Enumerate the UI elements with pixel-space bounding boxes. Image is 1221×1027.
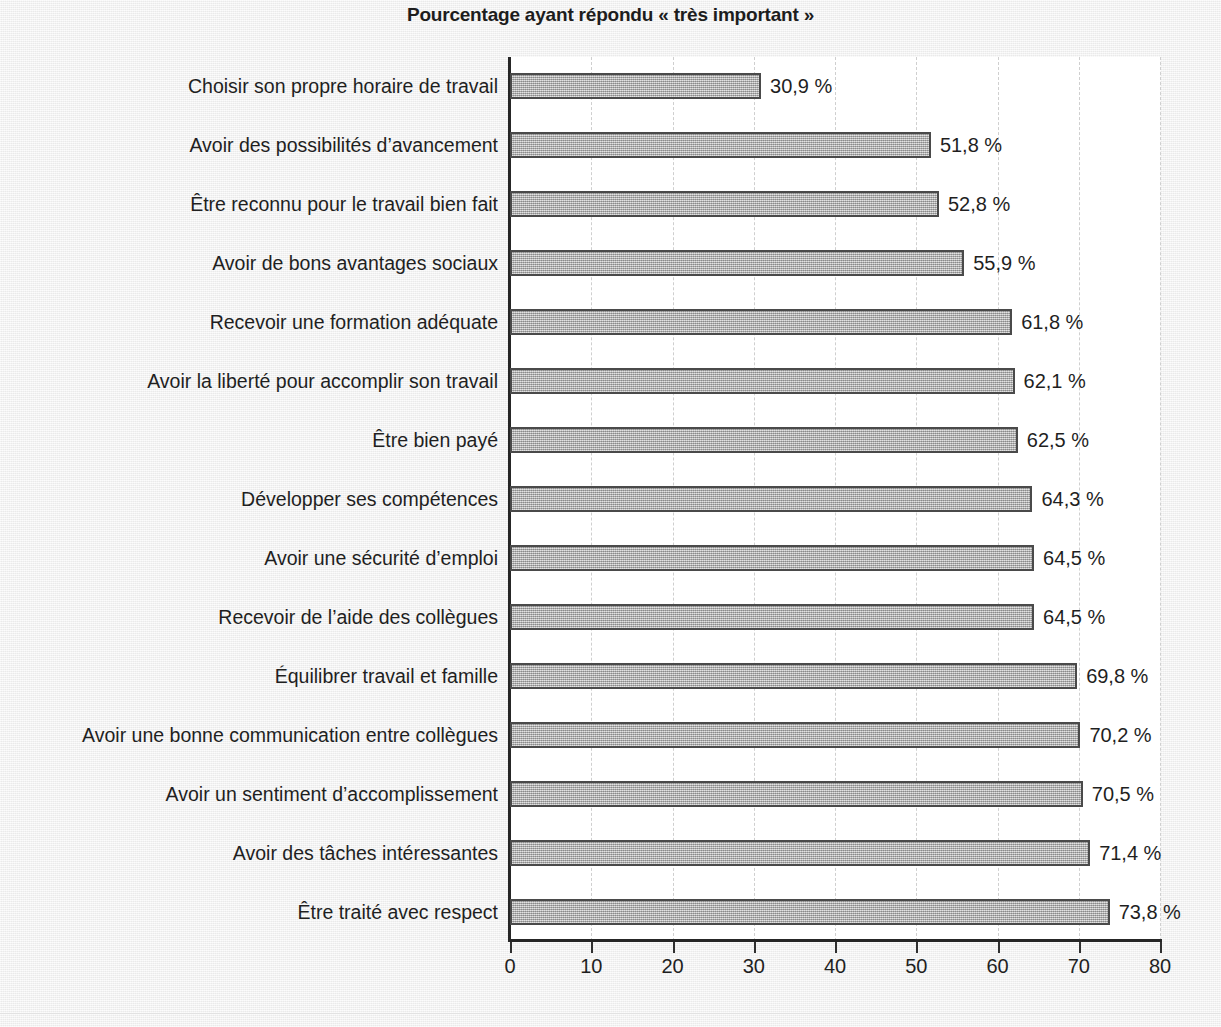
x-tick-mark: [1160, 942, 1162, 953]
bar-value-label: 30,9 %: [770, 71, 832, 101]
category-label: Être reconnu pour le travail bien fait: [0, 189, 498, 219]
x-tick-label: 20: [643, 955, 703, 978]
x-tick-label: 0: [480, 955, 540, 978]
category-label: Recevoir une formation adéquate: [0, 307, 498, 337]
x-tick-mark: [916, 942, 918, 953]
category-label: Avoir des tâches intéressantes: [0, 838, 498, 868]
category-label: Avoir une bonne communication entre coll…: [0, 720, 498, 750]
category-label: Avoir de bons avantages sociaux: [0, 248, 498, 278]
bar: [510, 722, 1080, 748]
bar-value-label: 52,8 %: [948, 189, 1010, 219]
bar: [510, 191, 939, 217]
chart-title: Pourcentage ayant répondu « très importa…: [0, 4, 1221, 26]
bar-row: Avoir une bonne communication entre coll…: [0, 720, 1221, 750]
category-label: Recevoir de l’aide des collègues: [0, 602, 498, 632]
bar: [510, 427, 1018, 453]
x-tick-label: 50: [886, 955, 946, 978]
x-tick-mark: [835, 942, 837, 953]
x-tick-label: 30: [724, 955, 784, 978]
bar-value-label: 64,5 %: [1043, 543, 1105, 573]
bar-value-label: 73,8 %: [1119, 897, 1181, 927]
bar: [510, 604, 1034, 630]
bar-value-label: 70,2 %: [1089, 720, 1151, 750]
bar: [510, 545, 1034, 571]
bar-value-label: 69,8 %: [1086, 661, 1148, 691]
bar: [510, 73, 761, 99]
category-label: Être traité avec respect: [0, 897, 498, 927]
bar: [510, 899, 1110, 925]
bar-row: Avoir de bons avantages sociaux55,9 %: [0, 248, 1221, 278]
category-label: Avoir une sécurité d’emploi: [0, 543, 498, 573]
category-label: Avoir un sentiment d’accomplissement: [0, 779, 498, 809]
x-tick-label: 80: [1130, 955, 1190, 978]
bar-value-label: 55,9 %: [973, 248, 1035, 278]
bar-value-label: 62,5 %: [1027, 425, 1089, 455]
category-label: Développer ses compétences: [0, 484, 498, 514]
bar-row: Choisir son propre horaire de travail30,…: [0, 71, 1221, 101]
bar-value-label: 71,4 %: [1099, 838, 1161, 868]
category-label: Avoir la liberté pour accomplir son trav…: [0, 366, 498, 396]
bar: [510, 840, 1090, 866]
bar-row: Être reconnu pour le travail bien fait52…: [0, 189, 1221, 219]
bar-value-label: 62,1 %: [1024, 366, 1086, 396]
bar-row: Avoir la liberté pour accomplir son trav…: [0, 366, 1221, 396]
x-tick-mark: [591, 942, 593, 953]
bar: [510, 663, 1077, 689]
bar: [510, 368, 1015, 394]
bar-value-label: 64,5 %: [1043, 602, 1105, 632]
bar-value-label: 64,3 %: [1041, 484, 1103, 514]
bar: [510, 486, 1032, 512]
bar-row: Être traité avec respect73,8 %: [0, 897, 1221, 927]
bar-row: Avoir une sécurité d’emploi64,5 %: [0, 543, 1221, 573]
bar-value-label: 70,5 %: [1092, 779, 1154, 809]
category-label: Choisir son propre horaire de travail: [0, 71, 498, 101]
x-tick-mark: [510, 942, 512, 953]
bar-row: Être bien payé62,5 %: [0, 425, 1221, 455]
bar-row: Recevoir une formation adéquate61,8 %: [0, 307, 1221, 337]
x-tick-label: 60: [968, 955, 1028, 978]
x-tick-mark: [673, 942, 675, 953]
bar-value-label: 61,8 %: [1021, 307, 1083, 337]
x-tick-label: 40: [805, 955, 865, 978]
bar: [510, 781, 1083, 807]
x-tick-mark: [1079, 942, 1081, 953]
x-tick-mark: [754, 942, 756, 953]
bar-row: Équilibrer travail et famille69,8 %: [0, 661, 1221, 691]
bar-row: Avoir des tâches intéressantes71,4 %: [0, 838, 1221, 868]
x-tick-label: 70: [1049, 955, 1109, 978]
bar: [510, 309, 1012, 335]
category-label: Équilibrer travail et famille: [0, 661, 498, 691]
category-label: Être bien payé: [0, 425, 498, 455]
bar-value-label: 51,8 %: [940, 130, 1002, 160]
chart-figure: Pourcentage ayant répondu « très importa…: [0, 0, 1221, 1027]
bottom-rule: [0, 1013, 1221, 1014]
bar-row: Avoir un sentiment d’accomplissement70,5…: [0, 779, 1221, 809]
bar-row: Avoir des possibilités d’avancement51,8 …: [0, 130, 1221, 160]
bar-row: Développer ses compétences64,3 %: [0, 484, 1221, 514]
x-tick-mark: [998, 942, 1000, 953]
category-label: Avoir des possibilités d’avancement: [0, 130, 498, 160]
bar: [510, 250, 964, 276]
bar: [510, 132, 931, 158]
x-tick-label: 10: [561, 955, 621, 978]
bar-row: Recevoir de l’aide des collègues64,5 %: [0, 602, 1221, 632]
